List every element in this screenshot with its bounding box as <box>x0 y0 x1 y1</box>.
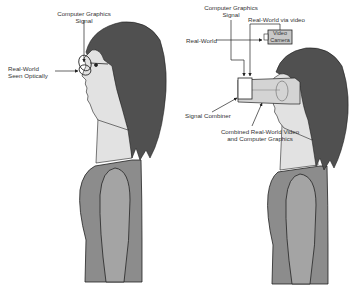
video-camera-line2: Camera <box>268 37 292 44</box>
ar-display-diagram <box>0 0 359 291</box>
right-sleeve <box>286 174 316 284</box>
real-world-via-video-label: Real-World via video <box>248 16 305 23</box>
left-cg-signal-line1: Computer Graphics <box>50 10 118 17</box>
right-cg-signal-line <box>231 20 244 76</box>
video-see-through-figure <box>212 20 348 284</box>
left-cg-signal-line2: Signal <box>50 17 118 24</box>
real-world-optical-line2: Seen Optically <box>8 72 48 79</box>
signal-combiner-label: Signal Combiner <box>185 112 231 119</box>
signal-combiner-box <box>238 78 252 99</box>
real-world-optical-line1: Real-World <box>8 65 48 72</box>
video-camera-label: Video Camera <box>268 30 292 43</box>
signal-combiner-arrow <box>212 98 237 112</box>
left-sleeve <box>100 168 130 282</box>
right-cg-signal-line1: Computer Graphics <box>197 4 265 11</box>
real-world-optical-label: Real-World Seen Optically <box>8 65 48 79</box>
left-cg-signal-label: Computer Graphics Signal <box>50 10 118 24</box>
combined-output-label: Combined Real-World Video and Computer G… <box>220 128 300 142</box>
real-world-label: Real-World <box>186 37 217 44</box>
combined-output-line1: Combined Real-World Video <box>220 128 300 135</box>
optical-see-through-figure <box>55 20 166 282</box>
combined-output-arrow <box>252 103 262 126</box>
combined-output-line2: and Computer Graphics <box>220 135 300 142</box>
